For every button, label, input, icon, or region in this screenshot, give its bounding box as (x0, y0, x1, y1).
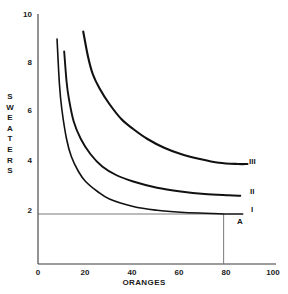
y-axis-title-letter: E (4, 145, 16, 156)
point-label-a: A (237, 217, 243, 226)
x-axis-title: ORANGES (0, 278, 288, 287)
y-axis-title-letter: R (4, 156, 16, 167)
curve-label-iii: III (249, 157, 256, 166)
y-axis-title-letter: E (4, 113, 16, 124)
x-tick-0: 0 (29, 268, 47, 277)
y-tick-8: 8 (16, 58, 32, 67)
y-axis-title-letter: W (4, 103, 16, 114)
x-tick-80: 80 (217, 268, 235, 277)
indifference-curve-ii (64, 52, 240, 196)
indifference-curve-iii (83, 32, 247, 165)
y-tick-2: 2 (16, 206, 32, 215)
x-tick-40: 40 (123, 268, 141, 277)
y-axis-title-letter: S (4, 166, 16, 177)
y-axis-title-letter: S (4, 92, 16, 103)
y-axis-title-letter: T (4, 134, 16, 145)
chart-figure: 10 8 6 4 2 0 20 40 60 80 100 S W E A T E… (0, 0, 288, 294)
curve-label-i: I (251, 205, 253, 214)
y-axis-title-letter: A (4, 124, 16, 135)
y-tick-10: 10 (16, 10, 32, 19)
curve-label-ii: II (250, 187, 254, 196)
y-tick-4: 4 (16, 156, 32, 165)
y-tick-6: 6 (16, 106, 32, 115)
y-axis-title: S W E A T E R S (4, 92, 16, 177)
x-tick-20: 20 (76, 268, 94, 277)
x-tick-60: 60 (170, 268, 188, 277)
indifference-curve-plot (0, 0, 288, 294)
indifference-curve-i (57, 39, 243, 214)
x-tick-100: 100 (264, 268, 282, 277)
